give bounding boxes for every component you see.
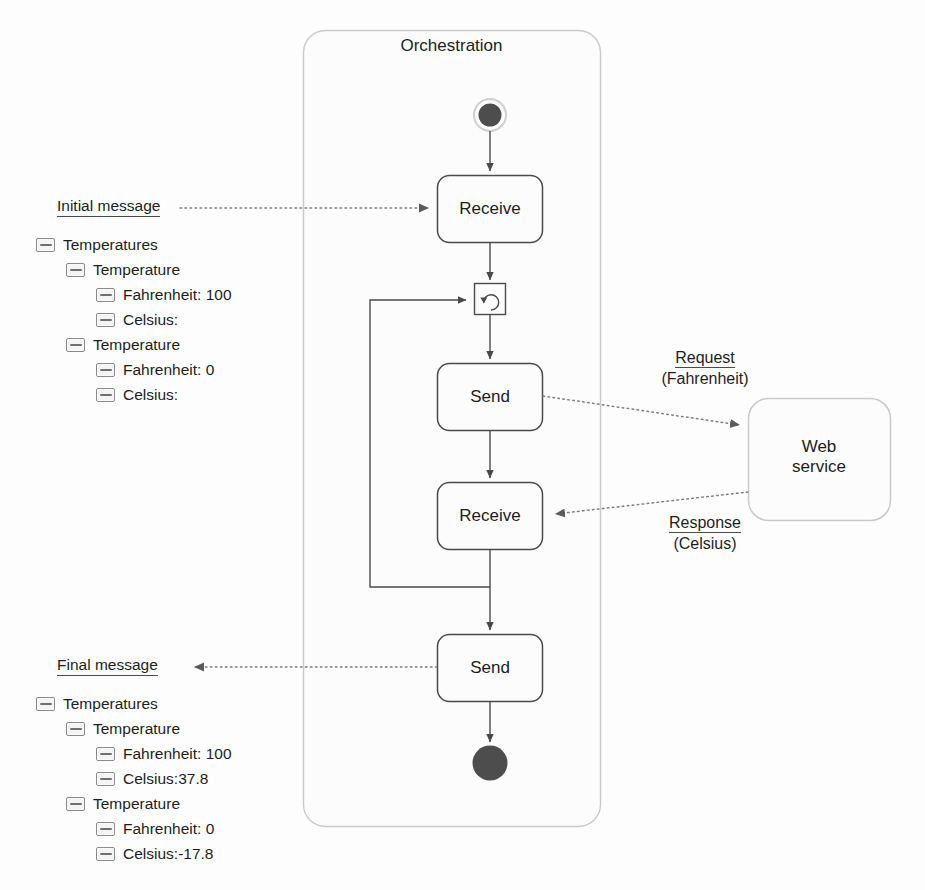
tree-row-label: Temperature [93,720,180,738]
final-message-tree: TemperaturesTemperatureFahrenheit: 100Ce… [36,691,232,866]
tree-row-label: Celsius: [123,845,178,863]
tree-row[interactable]: Celsius: -17.8 [36,841,232,866]
tree-row-label: Temperature [93,261,180,279]
collapse-toggle-icon[interactable] [66,263,85,277]
collapse-toggle-icon[interactable] [36,697,55,711]
tree-row[interactable]: Fahrenheit: 100 [36,282,232,307]
initial-message-heading: Initial message [57,197,160,217]
tree-row[interactable]: Fahrenheit: 0 [36,357,232,382]
tree-row-label: Temperatures [63,695,158,713]
request-edge-label: Request (Fahrenheit) [620,349,790,388]
tree-row[interactable]: Temperature [36,716,232,741]
tree-row[interactable]: Celsius: 37.8 [36,766,232,791]
tree-row[interactable]: Temperatures [36,691,232,716]
tree-row-label: Celsius: [123,386,178,404]
tree-row-value: 37.8 [178,770,208,788]
request-edge-title: Request [675,349,735,368]
tree-row-label: Temperature [93,795,180,813]
response-edge-label: Response (Celsius) [620,514,790,553]
collapse-toggle-icon[interactable] [96,772,115,786]
web-service-node [749,399,891,521]
collapse-toggle-icon[interactable] [96,822,115,836]
tree-row[interactable]: Temperature [36,332,232,357]
end-node [473,746,508,781]
start-node [474,99,506,131]
tree-row-label: Celsius: [123,770,178,788]
tree-row[interactable]: Fahrenheit: 100 [36,741,232,766]
tree-row-label: Temperatures [63,236,158,254]
tree-row-label: Fahrenheit: 100 [123,286,232,304]
collapse-toggle-icon[interactable] [96,847,115,861]
send-node-2 [438,635,543,702]
loop-node [475,284,506,315]
tree-row[interactable]: Temperature [36,791,232,816]
response-edge-title: Response [669,514,741,533]
collapse-toggle-icon[interactable] [66,722,85,736]
receive-node-1 [438,176,543,243]
tree-row[interactable]: Celsius: [36,382,232,407]
orchestration-title: Orchestration [303,36,600,56]
collapse-toggle-icon[interactable] [96,288,115,302]
initial-message-tree: TemperaturesTemperatureFahrenheit: 100Ce… [36,232,232,407]
collapse-toggle-icon[interactable] [66,338,85,352]
response-edge-subtitle: (Celsius) [620,535,790,553]
request-edge-subtitle: (Fahrenheit) [620,370,790,388]
tree-row[interactable]: Celsius: [36,307,232,332]
tree-row-label: Temperature [93,336,180,354]
send-node-1 [438,364,543,431]
tree-row-label: Fahrenheit: 100 [123,745,232,763]
tree-row[interactable]: Temperatures [36,232,232,257]
collapse-toggle-icon[interactable] [96,388,115,402]
collapse-toggle-icon[interactable] [96,313,115,327]
tree-row-label: Fahrenheit: 0 [123,361,214,379]
receive-node-2 [438,483,543,550]
collapse-toggle-icon[interactable] [36,238,55,252]
collapse-toggle-icon[interactable] [96,747,115,761]
tree-row-value: -17.8 [178,845,213,863]
final-message-heading: Final message [57,656,158,676]
collapse-toggle-icon[interactable] [66,797,85,811]
collapse-toggle-icon[interactable] [96,363,115,377]
tree-row-label: Celsius: [123,311,178,329]
tree-row-label: Fahrenheit: 0 [123,820,214,838]
diagram-canvas: Orchestration Receive Send Receive Send … [0,0,925,890]
tree-row[interactable]: Fahrenheit: 0 [36,816,232,841]
tree-row[interactable]: Temperature [36,257,232,282]
